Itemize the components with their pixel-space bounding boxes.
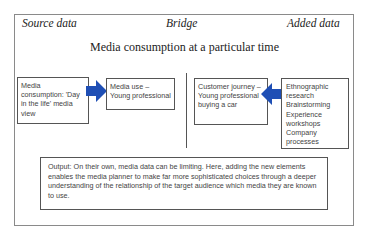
header-bridge: Bridge (166, 17, 197, 29)
diagram-title: Media consumption at a particular time (0, 40, 369, 55)
output-box: Output: On their own, media data can be … (40, 157, 328, 210)
arrow-left-icon (260, 83, 282, 105)
header-source-data: Source data (22, 17, 77, 29)
box-media-consumption: Media consumption: 'Day in the life' med… (17, 77, 89, 124)
box-media-use: Media use – Young professional (106, 78, 175, 110)
arrow-right-icon (86, 80, 108, 102)
bridge-divider (186, 73, 187, 148)
header-added-data: Added data (287, 17, 340, 29)
box-added-methods: Ethnographic research Brainstorming Expe… (281, 78, 349, 149)
box-customer-journey: Customer journey – Young professional bu… (194, 78, 268, 125)
